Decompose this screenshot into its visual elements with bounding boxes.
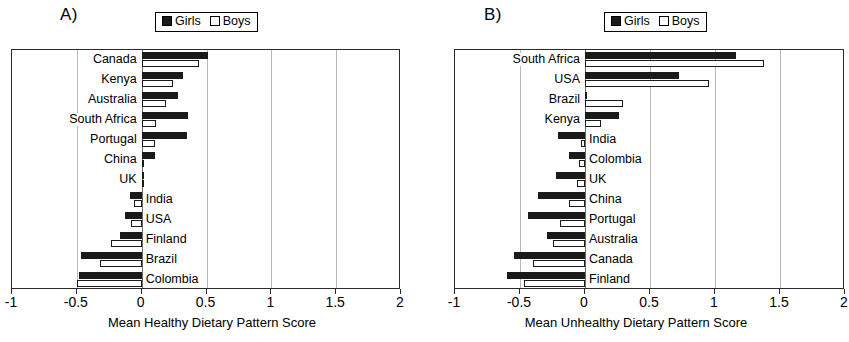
bar-boys	[569, 200, 585, 207]
x-axis-tick-label: 2	[396, 295, 404, 309]
chart-row: Finland	[12, 230, 399, 250]
category-label: Canada	[91, 53, 139, 66]
bar-boys	[585, 120, 601, 127]
bar-boys	[585, 80, 709, 87]
legend-item: Girls	[162, 15, 201, 28]
category-label: Brazil	[144, 253, 179, 266]
panel-b: B)GirlsBoysSouth AfricaUSABrazilKenyaInd…	[424, 0, 848, 342]
category-label: USA	[144, 213, 174, 226]
bar-girls	[514, 252, 586, 259]
bar-girls	[79, 272, 141, 279]
category-label: Portugal	[88, 133, 139, 146]
x-axis-tick-label: 1.5	[325, 295, 344, 309]
chart-row: China	[12, 150, 399, 170]
chart-row: UK	[12, 170, 399, 190]
category-label: Finland	[144, 233, 189, 246]
bar-boys	[533, 260, 585, 267]
bar-boys	[579, 160, 586, 167]
bar-girls	[556, 172, 585, 179]
bar-girls	[142, 72, 183, 79]
bar-boys	[581, 140, 585, 147]
bar-boys	[142, 160, 145, 167]
plot-area: South AfricaUSABrazilKenyaIndiaColombiaU…	[454, 49, 844, 289]
legend-item: Girls	[611, 15, 650, 28]
bar-girls	[585, 112, 619, 119]
chart-row: India	[12, 190, 399, 210]
bar-girls	[130, 192, 142, 199]
x-axis-tick-label: -1	[448, 295, 460, 309]
x-axis-tick-label: -1	[5, 295, 17, 309]
chart-row: Portugal	[12, 130, 399, 150]
legend-label: Boys	[223, 15, 251, 28]
category-label: Kenya	[543, 113, 582, 126]
chart-row: Australia	[455, 230, 843, 250]
bar-boys	[585, 100, 623, 107]
chart-row: Canada	[455, 250, 843, 270]
x-axis-title: Mean Unhealthy Dietary Pattern Score	[424, 315, 848, 330]
bar-girls	[120, 232, 142, 239]
x-axis-tick-label: 2	[840, 295, 848, 309]
bar-girls	[125, 212, 142, 219]
bar-boys	[131, 220, 141, 227]
bar-boys	[134, 200, 142, 207]
figure-two-panel-bar-chart: A)GirlsBoysCanadaKenyaAustraliaSouth Afr…	[0, 0, 849, 342]
chart-row: USA	[12, 210, 399, 230]
x-axis-tick-label: 0.5	[639, 295, 658, 309]
chart-legend: GirlsBoys	[155, 12, 258, 32]
category-label: Brazil	[547, 93, 582, 106]
chart-row: China	[455, 190, 843, 210]
x-axis-title: Mean Healthy Dietary Pattern Score	[0, 315, 424, 330]
bar-boys	[553, 240, 586, 247]
bar-boys	[100, 260, 141, 267]
category-label: UK	[587, 173, 608, 186]
bar-boys	[142, 60, 199, 67]
category-label: India	[144, 193, 175, 206]
x-axis-tick-label: -0.5	[507, 295, 531, 309]
bar-girls	[547, 232, 585, 239]
plot-area: CanadaKenyaAustraliaSouth AfricaPortugal…	[11, 49, 400, 289]
category-label: USA	[552, 73, 582, 86]
chart-row: Finland	[455, 270, 843, 290]
x-axis: -1-0.500.511.52	[11, 289, 400, 290]
bar-girls	[528, 212, 585, 219]
chart-row: Kenya	[12, 70, 399, 90]
bar-girls	[558, 132, 585, 139]
chart-legend: GirlsBoys	[604, 12, 707, 32]
panel-label: B)	[484, 5, 502, 25]
chart-row: Portugal	[455, 210, 843, 230]
bar-boys	[142, 140, 155, 147]
category-label: UK	[117, 173, 138, 186]
bar-girls	[585, 92, 587, 99]
category-label: China	[587, 193, 624, 206]
legend-label: Girls	[175, 15, 201, 28]
bar-boys	[585, 60, 764, 67]
x-axis-tick-label: 1	[710, 295, 718, 309]
chart-row: Colombia	[455, 150, 843, 170]
legend-label: Girls	[624, 15, 650, 28]
chart-row: Australia	[12, 90, 399, 110]
category-label: India	[587, 133, 618, 146]
panel-a: A)GirlsBoysCanadaKenyaAustraliaSouth Afr…	[0, 0, 424, 342]
x-axis-tick-label: 0.5	[196, 295, 215, 309]
bar-girls	[585, 52, 736, 59]
bar-boys	[142, 80, 173, 87]
bar-boys	[142, 180, 144, 187]
chart-row: South Africa	[12, 110, 399, 130]
x-axis-tick-label: 0	[137, 295, 145, 309]
chart-row: USA	[455, 70, 843, 90]
category-label: Colombia	[144, 273, 201, 286]
bar-girls	[142, 172, 144, 179]
x-axis-tick-label: -0.5	[64, 295, 88, 309]
panel-label: A)	[60, 5, 78, 25]
bar-boys	[524, 280, 585, 287]
legend-item: Boys	[659, 15, 700, 28]
bar-girls	[81, 252, 142, 259]
x-axis: -1-0.500.511.52	[454, 289, 844, 290]
chart-row: Brazil	[12, 250, 399, 270]
bar-boys	[577, 180, 585, 187]
legend-item: Boys	[210, 15, 251, 28]
hollow-square-icon	[659, 16, 669, 26]
legend-label: Boys	[672, 15, 700, 28]
category-label: South Africa	[67, 113, 138, 126]
bar-girls	[142, 152, 155, 159]
